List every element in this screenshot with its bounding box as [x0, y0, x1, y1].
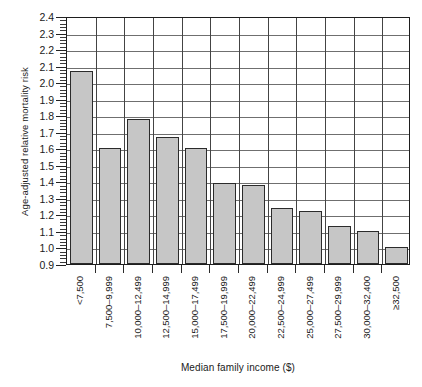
x-tick — [123, 265, 124, 273]
x-tick — [295, 265, 296, 273]
x-category-label-text: 17,500–19,999 — [219, 276, 229, 339]
y-tick-label: 2.1 — [16, 62, 54, 72]
bar — [99, 148, 122, 264]
bars-layer — [67, 18, 409, 264]
bar — [70, 71, 93, 264]
x-category-label-text: 30,000–32,400 — [362, 276, 372, 339]
y-axis-tick-rail — [56, 17, 66, 265]
x-category-label-text: ≥32,500 — [391, 276, 401, 310]
x-category-label: 10,000–12,499 — [123, 276, 152, 358]
y-major-tick — [56, 83, 66, 84]
x-tick — [381, 265, 382, 273]
x-tick — [324, 265, 325, 273]
x-category-label: 22,500–24,999 — [267, 276, 296, 358]
y-tick-label: 0.9 — [16, 260, 54, 270]
x-category-label: 20,000–22,499 — [238, 276, 267, 358]
y-major-tick — [56, 232, 66, 233]
x-category-label: 15,000–17,499 — [181, 276, 210, 358]
y-major-tick — [56, 17, 66, 18]
y-major-tick — [56, 215, 66, 216]
x-category-label-text: 25,000–27,499 — [305, 276, 315, 339]
y-tick-label: 2.3 — [16, 29, 54, 39]
x-tick — [181, 265, 182, 273]
y-tick-label: 1.5 — [16, 161, 54, 171]
bar — [299, 211, 322, 264]
y-tick-label: 1.6 — [16, 144, 54, 154]
y-tick-label: 1.9 — [16, 95, 54, 105]
bar — [385, 247, 408, 264]
x-category-label: ≥32,500 — [381, 276, 410, 358]
x-category-label-text: 12,500–14,999 — [161, 276, 171, 339]
y-tick-label: 1.8 — [16, 111, 54, 121]
bar — [127, 119, 150, 264]
bar-chart: Age-adjusted relative mortality risk 2.4… — [0, 0, 422, 387]
y-major-tick — [56, 50, 66, 51]
x-tick — [238, 265, 239, 273]
x-axis-title: Median family income ($) — [66, 362, 410, 373]
y-major-tick — [56, 100, 66, 101]
y-major-tick — [56, 166, 66, 167]
y-major-tick — [56, 248, 66, 249]
bar — [156, 137, 179, 264]
y-tick-label: 2.2 — [16, 45, 54, 55]
x-category-label: 27,500–29,999 — [324, 276, 353, 358]
x-category-label-text: 27,500–29,999 — [333, 276, 343, 339]
x-category-label: 17,500–19,999 — [209, 276, 238, 358]
y-major-tick — [56, 67, 66, 68]
x-axis-category-labels: <7,5007,500–9,99910,000–12,49912,500–14,… — [66, 276, 410, 358]
y-major-tick — [56, 149, 66, 150]
y-tick-label: 1.0 — [16, 243, 54, 253]
x-category-label: <7,500 — [66, 276, 95, 358]
x-category-label: 30,000–32,400 — [353, 276, 382, 358]
x-category-label-text: 10,000–12,499 — [133, 276, 143, 339]
bar — [328, 226, 351, 264]
bar — [185, 148, 208, 264]
y-major-tick — [56, 133, 66, 134]
y-tick-label: 1.3 — [16, 194, 54, 204]
y-axis-tick-labels: 2.42.32.22.12.01.91.81.71.61.51.41.31.21… — [16, 17, 54, 265]
x-category-label-text: 7,500–9,999 — [104, 276, 114, 328]
bar — [242, 185, 265, 264]
x-category-label: 12,500–14,999 — [152, 276, 181, 358]
x-tick — [353, 265, 354, 273]
x-tick — [95, 265, 96, 273]
x-category-label-text: <7,500 — [75, 276, 85, 305]
y-tick-label: 1.7 — [16, 128, 54, 138]
y-major-tick — [56, 199, 66, 200]
plot-area — [66, 17, 410, 265]
bar — [271, 208, 294, 264]
y-major-tick — [56, 182, 66, 183]
x-tick — [209, 265, 210, 273]
x-category-label-text: 22,500–24,999 — [276, 276, 286, 339]
x-category-label: 7,500–9,999 — [95, 276, 124, 358]
x-category-label-text: 15,000–17,499 — [190, 276, 200, 339]
x-category-label-text: 20,000–22,499 — [247, 276, 257, 339]
y-tick-label: 1.2 — [16, 210, 54, 220]
bar — [213, 183, 236, 264]
y-major-tick — [56, 265, 66, 266]
y-major-tick — [56, 116, 66, 117]
x-axis-ticks — [66, 265, 410, 274]
x-tick — [152, 265, 153, 273]
x-tick — [267, 265, 268, 273]
y-major-tick — [56, 34, 66, 35]
y-tick-label: 2.4 — [16, 12, 54, 22]
y-tick-label: 1.4 — [16, 177, 54, 187]
bar — [357, 231, 380, 264]
y-tick-label: 2.0 — [16, 78, 54, 88]
x-category-label: 25,000–27,499 — [295, 276, 324, 358]
y-tick-label: 1.1 — [16, 227, 54, 237]
